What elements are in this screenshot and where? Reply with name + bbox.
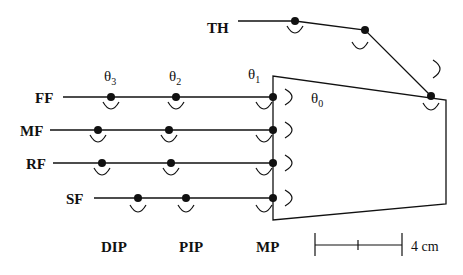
scale-bar (315, 233, 402, 256)
label-sf: SF (66, 191, 84, 207)
label-mf: MF (20, 123, 43, 139)
label-rf: RF (26, 156, 46, 172)
palm-outline (273, 76, 446, 220)
label-ff: FF (35, 90, 53, 106)
theta2-label: θ2 (169, 68, 181, 87)
theta0-label: θ0 (311, 90, 323, 109)
label-th: TH (207, 20, 229, 36)
scale-label: 4 cm (411, 239, 439, 254)
theta1-label: θ1 (248, 66, 260, 85)
hand-kinematics-diagram: FF MF RF SF TH θ3 θ2 θ1 θ0 DIP PIP MP 4 … (0, 0, 463, 275)
label-mp: MP (256, 239, 279, 255)
rotation-arcs (90, 26, 440, 212)
label-dip: DIP (101, 239, 127, 255)
label-pip: PIP (179, 239, 203, 255)
theta3-label: θ3 (104, 68, 116, 87)
